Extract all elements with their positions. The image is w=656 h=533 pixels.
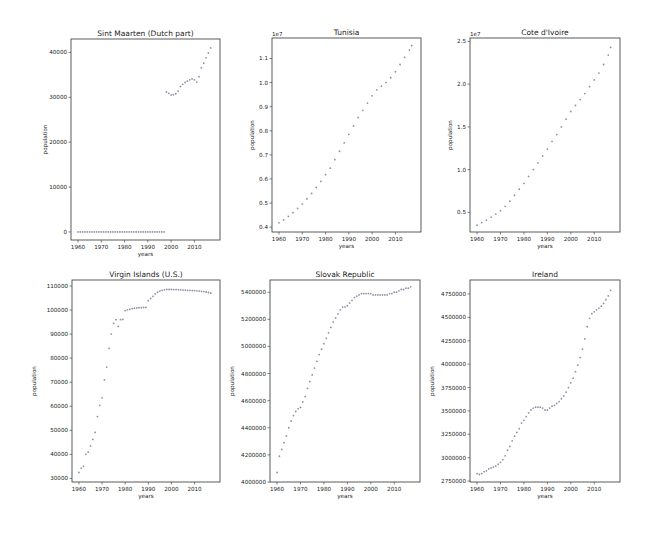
y-tick-label: 3000000: [441, 455, 466, 461]
x-tick-label: 2010: [587, 236, 602, 242]
x-tick-label: 2000: [364, 486, 379, 492]
y-tick-label: 0.5: [259, 200, 268, 206]
y-tick-label: 4000000: [241, 479, 266, 485]
y-tick-label: 5400000: [241, 289, 266, 295]
axis-offset-label: 1e7: [272, 31, 283, 37]
y-tick-label: 30000: [50, 475, 68, 481]
axes-frame: [72, 280, 220, 482]
y-tick-label: 4400000: [241, 425, 266, 431]
chart-title: Cote d'Ivoire: [521, 28, 569, 37]
x-tick-label: 1970: [295, 236, 310, 242]
x-tick-label: 2010: [587, 486, 602, 492]
x-axis-label: years: [537, 493, 552, 500]
x-tick-label: 1990: [340, 486, 355, 492]
x-tick-label: 1970: [94, 244, 109, 250]
y-axis-label: population: [447, 120, 454, 150]
y-tick-label: 0.6: [259, 176, 268, 182]
x-tick-label: 1980: [117, 244, 132, 250]
x-tick-label: 1980: [118, 486, 133, 492]
y-tick-label: 4750000: [441, 291, 466, 297]
y-tick-label: 0.5: [457, 209, 466, 215]
y-tick-label: 4000000: [441, 361, 466, 367]
x-axis-label: years: [138, 251, 153, 258]
x-tick-label: 2000: [164, 244, 179, 250]
y-tick-label: 2.5: [457, 38, 466, 44]
y-tick-label: 110000: [47, 283, 69, 289]
x-tick-label: 1980: [317, 486, 332, 492]
y-tick-label: 2.0: [457, 81, 466, 87]
y-tick-label: 60000: [50, 403, 68, 409]
y-tick-label: 1.0: [259, 80, 268, 86]
x-axis-label: years: [537, 243, 552, 250]
x-tick-label: 1960: [272, 236, 287, 242]
axes-frame: [272, 38, 421, 232]
x-tick-label: 1990: [540, 486, 555, 492]
subplot-6: Ireland196019701980199020002010275000030…: [429, 270, 620, 500]
x-tick-label: 1960: [71, 244, 86, 250]
chart-title: Virgin Islands (U.S.): [109, 270, 183, 279]
x-tick-label: 1990: [540, 236, 555, 242]
y-tick-label: 0.4: [259, 224, 268, 230]
axis-offset-label: 1e7: [470, 31, 481, 37]
subplot-3: Cote d'Ivoire1e7196019701980199020002010…: [447, 28, 620, 250]
x-tick-label: 1960: [470, 486, 485, 492]
x-tick-label: 2000: [164, 486, 179, 492]
y-tick-label: 4600000: [241, 398, 266, 404]
y-axis-label: population: [42, 124, 49, 154]
y-tick-label: 0.9: [259, 104, 268, 110]
y-tick-label: 1.0: [457, 167, 466, 173]
x-tick-label: 1970: [493, 486, 508, 492]
axes-frame: [71, 39, 220, 240]
x-tick-label: 2010: [187, 486, 202, 492]
y-tick-label: 70000: [50, 379, 68, 385]
x-tick-label: 1980: [517, 486, 532, 492]
x-tick-label: 2000: [365, 236, 380, 242]
subplot-5: Slovak Republic1960197019801990200020104…: [229, 270, 420, 500]
x-tick-label: 2010: [388, 236, 403, 242]
y-tick-label: 0: [63, 229, 67, 235]
x-tick-label: 1980: [517, 236, 532, 242]
x-axis-label: years: [138, 493, 153, 500]
x-tick-label: 2000: [564, 486, 579, 492]
y-tick-label: 4200000: [241, 452, 266, 458]
y-tick-label: 80000: [50, 355, 68, 361]
y-tick-label: 50000: [50, 427, 68, 433]
y-tick-label: 3500000: [441, 408, 466, 414]
y-axis-label: population: [229, 366, 236, 396]
x-tick-label: 1990: [342, 236, 357, 242]
x-tick-label: 1960: [270, 486, 285, 492]
x-tick-label: 1970: [493, 236, 508, 242]
y-tick-label: 20000: [49, 139, 67, 145]
y-tick-label: 1.5: [457, 124, 466, 130]
axes-frame: [270, 280, 420, 482]
subplot-4: Virgin Islands (U.S.)1960197019801990200…: [31, 270, 220, 500]
x-tick-label: 1970: [95, 486, 110, 492]
y-axis-label: population: [249, 120, 256, 150]
y-axis-label: population: [31, 366, 38, 396]
x-tick-label: 1980: [318, 236, 333, 242]
y-tick-label: 5200000: [241, 316, 266, 322]
axes-frame: [470, 280, 620, 482]
x-tick-label: 1990: [141, 244, 156, 250]
x-axis-label: years: [339, 243, 354, 250]
x-tick-label: 2010: [387, 486, 402, 492]
figure: Sint Maarten (Dutch part)196019701980199…: [0, 0, 656, 533]
subplot-2: Tunisia1e71960197019801990200020100.40.5…: [249, 28, 421, 250]
y-tick-label: 30000: [49, 94, 67, 100]
y-tick-label: 100000: [47, 307, 69, 313]
y-tick-label: 1.1: [259, 55, 268, 61]
x-tick-label: 1990: [141, 486, 156, 492]
y-axis-label: population: [429, 366, 436, 396]
chart-title: Tunisia: [333, 28, 360, 37]
x-tick-label: 2010: [187, 244, 202, 250]
subplot-1: Sint Maarten (Dutch part)196019701980199…: [42, 29, 220, 258]
y-tick-label: 0.7: [259, 152, 268, 158]
y-tick-label: 40000: [50, 451, 68, 457]
x-tick-label: 1970: [293, 486, 308, 492]
y-tick-label: 3750000: [441, 385, 466, 391]
x-tick-label: 1960: [470, 236, 485, 242]
y-tick-label: 3250000: [441, 431, 466, 437]
chart-title: Slovak Republic: [315, 270, 374, 279]
chart-title: Ireland: [532, 270, 558, 279]
y-tick-label: 40000: [49, 49, 67, 55]
